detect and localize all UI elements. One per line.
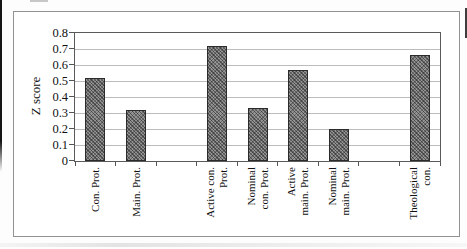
x-axis-tick: [156, 162, 157, 166]
y-axis-tick: [69, 144, 74, 145]
scan-edge-artifact-left: [0, 0, 2, 172]
y-axis-tick: [69, 112, 74, 113]
y-tick-label: 0.1: [26, 138, 68, 152]
bar: [288, 70, 308, 161]
x-axis-label-line: con.: [420, 167, 433, 229]
y-axis-tick: [69, 80, 74, 81]
scan-smudge-top: [30, 0, 48, 2]
x-axis-label-line: Main. Prot.: [129, 167, 142, 229]
bar: [410, 55, 430, 161]
y-tick-label: 0: [26, 154, 68, 168]
y-tick-label: 0.2: [26, 122, 68, 136]
gridline: [75, 97, 440, 98]
y-axis-tick: [69, 48, 74, 49]
x-axis-label-line: con. Prot.: [258, 167, 271, 229]
x-axis-label: Con. Prot.: [81, 167, 109, 229]
x-axis-label-line: Nominal: [245, 167, 258, 229]
x-axis-label-line: main. Prot.: [298, 167, 311, 229]
x-axis-label: Theologicalcon.: [406, 167, 434, 229]
bar-chart-figure: Z score 0.80.70.60.50.40.30.20.10Con. Pr…: [13, 11, 460, 237]
x-axis-label-line: Theological: [407, 167, 420, 229]
x-axis-tick: [277, 162, 278, 166]
y-axis-tick: [69, 64, 74, 65]
x-axis-label: Main. Prot.: [122, 167, 150, 229]
x-axis-tick: [358, 162, 359, 166]
x-axis-label: Nominalcon. Prot.: [244, 167, 272, 229]
x-axis-tick: [196, 162, 197, 166]
x-axis-label: Activemain. Prot.: [284, 167, 312, 229]
x-axis-tick: [75, 162, 76, 166]
x-axis-label-line: Con. Prot.: [89, 167, 102, 229]
x-axis-label: Active con.Prot.: [203, 167, 231, 229]
gridline: [75, 81, 440, 82]
x-axis-label-line: Active con.: [204, 167, 217, 229]
x-axis-label-line: main. Prot.: [339, 167, 352, 229]
x-axis-tick: [399, 162, 400, 166]
bar: [207, 46, 227, 161]
y-tick-label: 0.7: [26, 42, 68, 56]
x-axis-tick: [237, 162, 238, 166]
x-axis-label-line: Nominal: [326, 167, 339, 229]
x-axis-label-line: Active: [285, 167, 298, 229]
gridline: [75, 65, 440, 66]
x-axis-label-line: Prot.: [217, 167, 230, 229]
x-axis-tick: [440, 162, 441, 166]
bar: [248, 108, 268, 161]
y-axis-tick: [69, 32, 74, 33]
y-axis-tick: [69, 96, 74, 97]
bar: [85, 78, 105, 161]
y-tick-label: 0.6: [26, 58, 68, 72]
gridline: [75, 49, 440, 50]
y-tick-label: 0.4: [26, 90, 68, 104]
y-axis-tick: [69, 160, 74, 161]
scanned-page: Z score 0.80.70.60.50.40.30.20.10Con. Pr…: [0, 0, 467, 249]
bar: [126, 110, 146, 161]
x-axis-tick: [318, 162, 319, 166]
y-tick-label: 0.5: [26, 74, 68, 88]
scan-smudge-bottom: [0, 243, 467, 247]
y-tick-label: 0.3: [26, 106, 68, 120]
y-tick-label: 0.8: [26, 26, 68, 40]
x-axis-label: Nominalmain. Prot.: [325, 167, 353, 229]
bar: [329, 129, 349, 161]
y-axis-tick: [69, 128, 74, 129]
x-axis-tick: [115, 162, 116, 166]
plot-area: [74, 32, 441, 162]
